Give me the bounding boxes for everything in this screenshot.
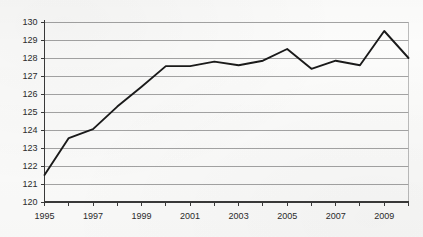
x-axis-tick-labels: 19951997199920012003200520072009 — [34, 211, 394, 221]
y-tick-label: 127 — [22, 71, 37, 81]
y-tick-label: 126 — [22, 89, 37, 99]
x-axis-ticks — [45, 202, 409, 206]
y-tick-label: 130 — [22, 17, 37, 27]
x-tick-label: 1997 — [83, 211, 103, 221]
x-tick-label: 1999 — [132, 211, 152, 221]
line-chart: 120121122123124125126127128129130 199519… — [0, 0, 423, 237]
x-tick-label: 2009 — [374, 211, 394, 221]
y-tick-label: 123 — [22, 143, 37, 153]
y-tick-label: 128 — [22, 53, 37, 63]
y-tick-label: 124 — [22, 125, 37, 135]
x-tick-label: 2005 — [277, 211, 297, 221]
y-tick-label: 125 — [22, 107, 37, 117]
gridlines — [45, 22, 409, 202]
y-tick-label: 121 — [22, 179, 37, 189]
series-line-path — [45, 31, 409, 175]
y-tick-label: 122 — [22, 161, 37, 171]
chart-canvas: 120121122123124125126127128129130 199519… — [0, 0, 423, 237]
x-tick-label: 2001 — [180, 211, 200, 221]
y-axis-tick-labels: 120121122123124125126127128129130 — [22, 17, 37, 207]
data-series-line — [45, 31, 409, 175]
x-tick-label: 2007 — [326, 211, 346, 221]
x-tick-label: 1995 — [34, 211, 54, 221]
y-tick-label: 120 — [22, 197, 37, 207]
x-tick-label: 2003 — [229, 211, 249, 221]
y-tick-label: 129 — [22, 35, 37, 45]
